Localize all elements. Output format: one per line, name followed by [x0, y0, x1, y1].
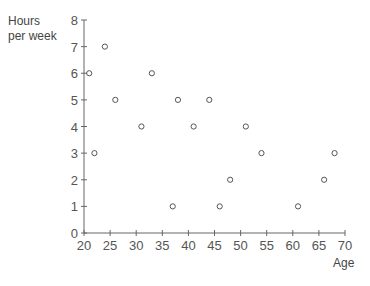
scatter-chart: Hours per week Age 202530354045505560657… [0, 0, 370, 286]
y-tick-label: 8 [71, 13, 78, 28]
data-point [295, 204, 300, 209]
y-axis-label-line2: per week [8, 29, 57, 44]
x-tick-label: 70 [338, 238, 352, 253]
y-tick-label: 4 [71, 120, 78, 135]
data-point [175, 97, 180, 102]
x-tick-label: 45 [207, 238, 221, 253]
y-tick-label: 0 [71, 226, 78, 241]
x-tick-label: 35 [155, 238, 169, 253]
x-tick-label: 40 [181, 238, 195, 253]
x-tick-label: 25 [103, 238, 117, 253]
data-point [191, 124, 196, 129]
data-point [139, 124, 144, 129]
data-point [102, 44, 107, 49]
data-point [243, 124, 248, 129]
data-point [113, 97, 118, 102]
y-tick-label: 2 [71, 173, 78, 188]
x-axis-label: Age [333, 256, 354, 270]
x-tick-label: 50 [233, 238, 247, 253]
x-tick-label: 60 [286, 238, 300, 253]
data-point [87, 71, 92, 76]
data-point [149, 71, 154, 76]
y-tick-label: 5 [71, 93, 78, 108]
data-point [92, 151, 97, 156]
x-tick-label: 55 [259, 238, 273, 253]
data-point [207, 97, 212, 102]
x-tick-label: 65 [312, 238, 326, 253]
y-tick-label: 7 [71, 40, 78, 55]
x-tick-label: 20 [77, 238, 91, 253]
x-tick-label: 30 [129, 238, 143, 253]
y-tick-label: 6 [71, 66, 78, 81]
data-point [259, 151, 264, 156]
data-point [322, 177, 327, 182]
y-tick-label: 1 [71, 199, 78, 214]
data-point [228, 177, 233, 182]
y-tick-label: 3 [71, 146, 78, 161]
y-axis-label: Hours per week [8, 14, 57, 44]
data-point [217, 204, 222, 209]
data-point [170, 204, 175, 209]
y-axis-label-line1: Hours [8, 14, 57, 29]
data-point [332, 151, 337, 156]
